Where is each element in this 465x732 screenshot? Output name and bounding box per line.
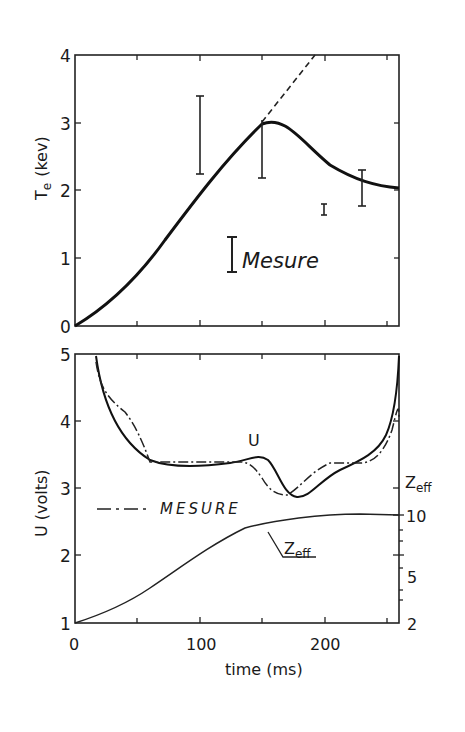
error-bars: [196, 96, 366, 215]
top-ylabel: Te(kev): [32, 136, 54, 201]
bottom-legend: MESURE: [97, 500, 241, 518]
bottom-ytick-5: 5: [60, 345, 71, 365]
bottom-ytick-3: 3: [60, 479, 71, 499]
bottom-ylabel: U (volts): [32, 469, 51, 537]
top-plot-frame: [75, 55, 399, 326]
xtick-0: 0: [69, 635, 79, 654]
top-ytick-2: 2: [60, 181, 71, 201]
right-axis-label-main: Z: [405, 473, 416, 492]
svg-text:Te(kev): Te(kev): [32, 136, 54, 201]
top-legend-label: Mesure: [242, 249, 319, 273]
u-computed-curve: [96, 356, 399, 497]
te-extrapolated-dashed: [262, 55, 315, 122]
zeff-curve: [75, 514, 399, 623]
top-ytick-4: 4: [60, 46, 71, 66]
top-x-ticks: [75, 55, 399, 326]
xlabel: time (ms): [225, 660, 303, 679]
bottom-plot-frame: [75, 354, 399, 623]
right-tick-2: 2: [407, 615, 417, 634]
top-ylabel-sub: e: [40, 183, 54, 190]
figure: 0 1 2 3 4 Te(kev) Mesure: [0, 0, 465, 732]
bottom-ytick-2: 2: [60, 546, 71, 566]
xtick-100: 100: [186, 635, 217, 654]
top-legend: Mesure: [227, 237, 319, 273]
top-ytick-3: 3: [60, 114, 71, 134]
bottom-ytick-1: 1: [60, 614, 71, 634]
xtick-200: 200: [310, 635, 341, 654]
right-tick-10: 10: [406, 507, 426, 526]
bottom-legend-label: MESURE: [160, 500, 241, 518]
top-ytick-0: 0: [60, 317, 71, 337]
right-axis-label-sub: eff: [416, 481, 432, 495]
legend-errorbar-icon: [227, 237, 237, 272]
te-curve: [75, 122, 399, 326]
right-tick-5: 5: [407, 568, 417, 587]
top-ylabel-main: T: [32, 190, 51, 201]
zeff-curve-label-main: Z: [284, 539, 295, 558]
top-ytick-1: 1: [60, 249, 71, 269]
bottom-ytick-4: 4: [60, 412, 71, 432]
zeff-curve-label: Zeff: [284, 539, 311, 561]
right-axis-label: Zeff: [405, 473, 432, 495]
u-measured-dashdot-curve: [96, 362, 399, 495]
bottom-panel: 1 2 3 4 5 U (volts) 2 5 10 Zeff 0 100 20…: [32, 345, 432, 679]
bottom-ticks: [75, 354, 404, 623]
u-curve-label: U: [248, 431, 260, 450]
top-ylabel-unit: (kev): [32, 136, 51, 177]
zeff-curve-label-sub: eff: [295, 547, 311, 561]
top-panel: 0 1 2 3 4 Te(kev) Mesure: [32, 46, 399, 337]
